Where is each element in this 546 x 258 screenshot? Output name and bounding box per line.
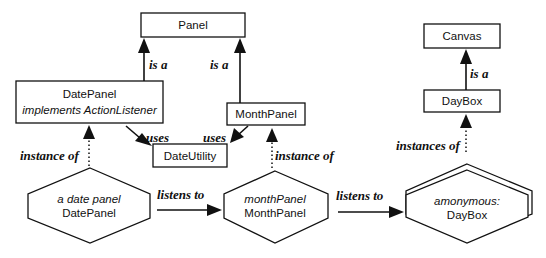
arrowhead-icon (460, 114, 472, 128)
instance-of-arrow-month-panel: instance of (266, 128, 336, 168)
class-day-box: DayBox (424, 90, 500, 112)
arrowhead-icon (138, 38, 150, 53)
month-panel-label: MonthPanel (235, 108, 296, 120)
instance-date-panel: a date panel DatePanel (28, 168, 150, 243)
is-a-arrow-date-panel: is a (138, 38, 168, 81)
instances-of-arrow-day-box: instances of (396, 114, 472, 153)
listens-to-arrow-month-to-daybox: listens to (336, 188, 404, 218)
instance-of-label: instance of (275, 148, 336, 163)
panel-label: Panel (178, 19, 207, 31)
uses-label: uses (203, 130, 226, 145)
day-box-label: DayBox (442, 95, 483, 107)
date-panel-instance-hexagon (28, 168, 150, 243)
instance-of-arrow-date-panel: instance of (20, 125, 95, 166)
day-box-instance-label: amonymous: (434, 195, 500, 207)
arrowhead-icon (234, 38, 246, 53)
listens-to-label: listens to (157, 187, 205, 202)
date-panel-instance-label: a date panel (57, 193, 121, 205)
date-utility-label: DateUtility (164, 150, 217, 162)
class-diagram: Panel DatePanel implements ActionListene… (0, 0, 546, 258)
instance-month-panel: monthPanel MonthPanel (224, 171, 328, 243)
date-panel-label: DatePanel (63, 88, 117, 100)
listens-to-label: listens to (336, 188, 384, 203)
class-date-panel: DatePanel implements ActionListener (16, 81, 163, 123)
date-panel-note: implements ActionListener (22, 104, 158, 116)
instance-of-label: instance of (20, 148, 81, 163)
class-month-panel: MonthPanel (227, 103, 305, 125)
class-date-utility: DateUtility (153, 144, 227, 167)
arrowhead-icon (83, 125, 95, 139)
date-panel-instance-type: DatePanel (62, 207, 116, 219)
instances-of-label: instances of (396, 138, 462, 153)
canvas-label: Canvas (443, 30, 482, 42)
arrowhead-icon (389, 206, 404, 218)
arrowhead-icon (207, 204, 222, 216)
arrowhead-icon (460, 49, 472, 64)
is-a-label: is a (210, 57, 229, 72)
day-box-instance-type: DayBox (447, 209, 488, 221)
is-a-label: is a (149, 57, 168, 72)
uses-arrow-month-panel: uses (203, 126, 248, 145)
is-a-arrow-day-box: is a (460, 49, 489, 90)
is-a-arrow-month-panel: is a (210, 38, 246, 103)
arrowhead-icon (266, 128, 278, 142)
instances-day-box: amonymous: DayBox (406, 164, 532, 243)
month-panel-instance-type: MonthPanel (244, 207, 305, 219)
month-panel-instance-label: monthPanel (244, 193, 306, 205)
uses-arrow-date-panel: uses (126, 126, 169, 146)
class-canvas: Canvas (424, 24, 500, 48)
listens-to-arrow-date-to-month: listens to (157, 187, 222, 216)
uses-label: uses (146, 130, 169, 145)
arrowhead-icon (230, 128, 244, 143)
class-panel: Panel (141, 13, 245, 37)
is-a-label: is a (470, 66, 489, 81)
